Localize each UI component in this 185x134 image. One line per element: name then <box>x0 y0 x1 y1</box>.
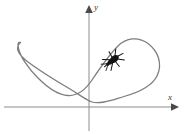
bug-icon <box>98 46 128 75</box>
y-axis-label: y <box>94 3 98 12</box>
y-axis-arrowhead <box>85 5 93 13</box>
x-axis <box>4 103 179 111</box>
graph-figure: y x <box>0 0 185 134</box>
plot-canvas <box>0 0 185 134</box>
y-axis <box>85 5 93 131</box>
x-axis-arrowhead <box>171 103 179 111</box>
x-axis-label: x <box>168 93 172 102</box>
